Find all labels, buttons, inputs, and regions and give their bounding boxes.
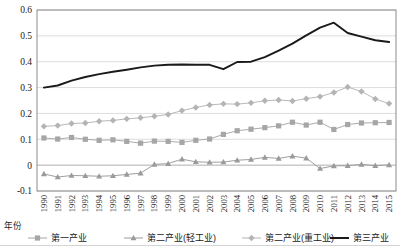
data-point-marker-square xyxy=(386,120,391,125)
x-axis-tick-label: 2002 xyxy=(205,195,215,212)
data-point-marker-square xyxy=(248,127,253,132)
y-axis-tick-label: 0.6 xyxy=(20,5,32,15)
x-axis-tick-label: 1998 xyxy=(149,195,159,212)
y-axis-tick-label: 0.1 xyxy=(20,135,32,145)
x-axis-tick-label: 1994 xyxy=(94,194,104,212)
x-axis-tick-label: 2012 xyxy=(343,195,353,212)
x-axis-tick-label: 2007 xyxy=(274,194,284,212)
x-axis-tick-label: 2004 xyxy=(232,194,242,212)
x-axis-tick-label: 2013 xyxy=(357,195,367,212)
x-axis-tick-label: 2009 xyxy=(301,195,311,212)
x-axis-tick-label: 2006 xyxy=(260,194,270,212)
x-axis-tick-label: 2014 xyxy=(370,194,380,212)
x-axis-tick-label: 2008 xyxy=(288,195,298,212)
x-axis-tick-label: 1995 xyxy=(108,195,118,212)
x-axis-ticks: 1990199119921993199419951996199719981999… xyxy=(39,194,394,212)
x-axis-tick-label: 1993 xyxy=(80,195,90,212)
data-point-marker-diamond xyxy=(248,235,254,241)
data-point-marker-square xyxy=(69,135,74,140)
data-point-marker-square xyxy=(276,123,281,128)
data-point-marker-square xyxy=(179,140,184,145)
data-point-marker-square xyxy=(304,122,309,127)
x-axis-tick-label: 1991 xyxy=(53,195,63,212)
data-point-marker-square xyxy=(235,128,240,133)
legend-item-label: 第二产业(轻工业) xyxy=(147,232,216,243)
legend-item-4[interactable]: 第三产业 xyxy=(330,232,389,243)
y-axis-tick-label: 0 xyxy=(27,161,32,171)
line-chart: -0.100.10.20.30.40.50.619901991199219931… xyxy=(0,0,400,252)
x-axis-tick-label: 1999 xyxy=(163,195,173,212)
x-axis-tick-label: 1997 xyxy=(136,194,146,212)
data-point-marker-square xyxy=(221,132,226,137)
data-point-marker-square xyxy=(359,120,364,125)
legend-item-label: 第二产业(重工业) xyxy=(265,232,334,243)
y-axis-tick-label: 0.3 xyxy=(20,83,32,93)
data-point-marker-square xyxy=(55,136,60,141)
x-axis-tick-label: 2015 xyxy=(384,195,394,212)
x-axis-tick-label: 2001 xyxy=(191,195,201,212)
legend-item-label: 第一产业 xyxy=(51,232,87,243)
y-axis-tick-label: -0.1 xyxy=(17,186,32,196)
data-point-marker-square xyxy=(373,120,378,125)
x-axis-tick-label: 1996 xyxy=(122,194,132,212)
plot-area xyxy=(37,10,396,191)
x-axis-tick-label: 1992 xyxy=(67,195,77,212)
y-axis-tick-label: 0.5 xyxy=(20,31,32,41)
data-point-marker-square xyxy=(124,139,129,144)
chart-canvas: -0.100.10.20.30.40.50.619901991199219931… xyxy=(0,0,400,252)
data-point-marker-square xyxy=(166,139,171,144)
legend-item-3[interactable]: 第二产业(重工业) xyxy=(242,232,334,243)
x-axis-tick-label: 2000 xyxy=(177,195,187,212)
data-point-marker-square xyxy=(35,235,40,240)
data-point-marker-square xyxy=(331,127,336,132)
data-point-marker-square xyxy=(207,136,212,141)
x-axis-tick-label: 2011 xyxy=(329,195,339,212)
data-point-marker-square xyxy=(345,122,350,127)
legend-item-1[interactable]: 第一产业 xyxy=(28,232,87,243)
legend: 第一产业第二产业(轻工业)第二产业(重工业)第三产业 xyxy=(0,232,400,246)
y-axis-tick-label: 0.2 xyxy=(20,109,32,119)
legend-item-label: 第三产业 xyxy=(353,232,389,243)
x-axis-title: 年份 xyxy=(4,220,22,231)
data-point-marker-square xyxy=(110,137,115,142)
data-point-marker-square xyxy=(138,141,143,146)
legend-item-2[interactable]: 第二产业(轻工业) xyxy=(124,232,216,243)
data-point-marker-square xyxy=(193,138,198,143)
data-point-marker-square xyxy=(317,120,322,125)
y-axis-ticks: -0.100.10.20.30.40.50.6 xyxy=(17,5,32,196)
data-point-marker-square xyxy=(83,137,88,142)
x-axis-tick-label: 2003 xyxy=(219,195,229,212)
data-point-marker-square xyxy=(97,138,102,143)
y-axis-tick-label: 0.4 xyxy=(20,57,32,67)
data-point-marker-square xyxy=(290,120,295,125)
data-point-marker-square xyxy=(262,125,267,130)
x-axis-tick-label: 2005 xyxy=(246,195,256,212)
data-point-marker-square xyxy=(41,135,46,140)
data-point-marker-square xyxy=(152,138,157,143)
x-axis-tick-label: 2010 xyxy=(315,195,325,212)
x-axis-tick-label: 1990 xyxy=(39,195,49,212)
